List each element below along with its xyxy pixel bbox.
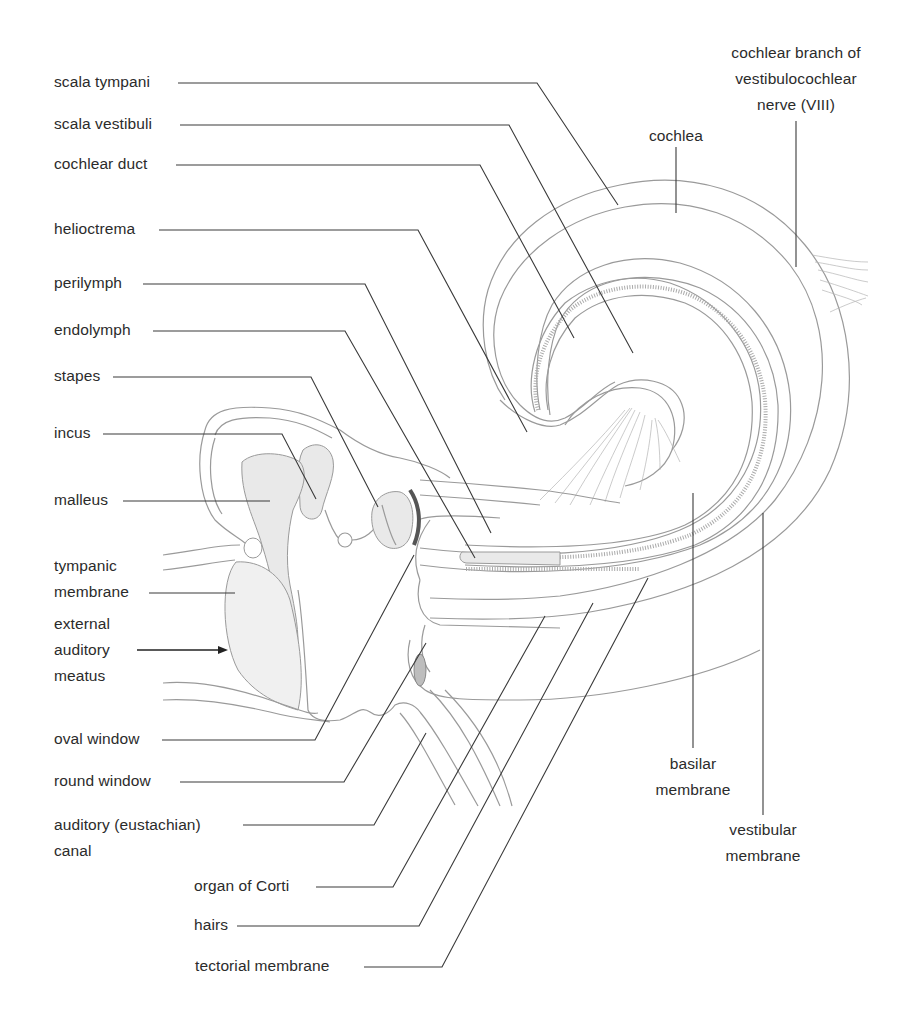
leader-organ-of-corti [316, 616, 545, 887]
label-scala-tympani: scala tympani [54, 70, 150, 94]
leader-scala-tympani [178, 83, 618, 205]
label-hairs: hairs [194, 913, 228, 937]
label-stapes: stapes [54, 364, 100, 388]
leader-round-window [180, 643, 426, 782]
label-cochlear-nerve: cochlear branch of vestibulocochlear ner… [706, 40, 886, 118]
label-cochlea: cochlea [640, 124, 712, 148]
label-perilymph: perilymph [54, 271, 122, 295]
label-organ-of-corti: organ of Corti [194, 874, 289, 898]
label-oval-window: oval window [54, 727, 140, 751]
middle-ear-drawing [163, 407, 512, 806]
label-round-window: round window [54, 769, 151, 793]
label-tympanic-membrane: tympanic membrane [54, 553, 129, 605]
label-cochlear-duct: cochlear duct [54, 152, 148, 176]
leader-tectorial-membrane [364, 578, 648, 967]
label-endolymph: endolymph [54, 318, 131, 342]
label-malleus: malleus [54, 488, 108, 512]
leader-scala-vestibuli [180, 125, 633, 353]
leader-auditory-canal [243, 733, 426, 825]
label-basilar-membrane: basilar membrane [643, 751, 743, 803]
label-vestibular-membrane: vestibular membrane [713, 817, 813, 869]
label-tectorial-membrane: tectorial membrane [195, 954, 329, 978]
vestibule-drawing [408, 480, 760, 700]
sound-direction-arrow-icon [137, 646, 228, 654]
leader-cochlear-duct [176, 165, 574, 338]
label-incus: incus [54, 421, 91, 445]
label-external-auditory-meatus: external auditory meatus [54, 611, 110, 689]
label-scala-vestibuli: scala vestibuli [54, 112, 152, 136]
label-auditory-canal: auditory (eustachian) canal [54, 812, 201, 864]
label-helicotrema: helioctrema [54, 217, 135, 241]
